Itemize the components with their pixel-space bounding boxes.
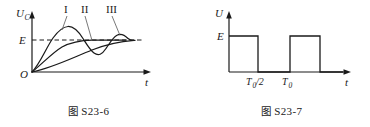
caption-id-right: S23-7: [274, 105, 302, 117]
figure-s23-6: I II III U C t O E 图 S23-6: [0, 0, 185, 127]
curve-label-ii: II: [81, 3, 89, 15]
figure-page: I II III U C t O E 图 S23-6: [0, 0, 370, 127]
chart-step-response: I II III U C t O E: [0, 0, 185, 100]
curve-iii: [32, 40, 134, 72]
x-axis-label: t: [345, 76, 349, 88]
caption-prefix-left: 图: [68, 105, 78, 117]
tick-period-sub: 0: [289, 81, 293, 90]
leader-line-ii: [85, 16, 92, 41]
square-wave-trace: [229, 36, 343, 72]
x-axis-label: t: [145, 76, 149, 88]
caption-prefix-right: 图: [261, 105, 271, 117]
curve-i: [32, 26, 135, 72]
curve-label-iii: III: [106, 3, 117, 15]
caption-id-left: S23-6: [81, 105, 109, 117]
x-axis: [32, 69, 151, 75]
curve-label-i: I: [64, 3, 68, 15]
y-axis: [29, 11, 35, 72]
tick-half-period-div: /2: [255, 76, 264, 87]
figure-caption-left: 图 S23-6: [0, 103, 181, 118]
chart-square-wave: U t E T 0 /2 T 0: [185, 0, 370, 100]
figure-caption-right: 图 S23-7: [189, 103, 370, 118]
origin-label: O: [20, 68, 28, 80]
tick-label-half-period: T 0 /2: [246, 76, 264, 90]
level-label-e: E: [18, 34, 26, 46]
tick-label-period: T 0: [282, 76, 293, 90]
y-axis-label: U: [215, 7, 224, 19]
level-label-e: E: [216, 30, 224, 42]
figure-s23-7: U t E T 0 /2 T 0 图 S23-7: [185, 0, 370, 127]
leader-line-iii: [112, 16, 120, 36]
y-axis: [226, 11, 232, 72]
